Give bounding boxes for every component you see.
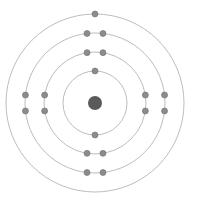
electron [142, 108, 148, 114]
electron [100, 150, 106, 156]
electron [162, 108, 168, 114]
electron [92, 68, 98, 74]
electron [142, 92, 148, 98]
electron [92, 132, 98, 138]
electron [84, 150, 90, 156]
atom-diagram [0, 0, 202, 201]
nucleus [88, 96, 102, 110]
electron [22, 92, 28, 98]
electron [100, 170, 106, 176]
electron [22, 108, 28, 114]
electron [84, 50, 90, 56]
electron [84, 170, 90, 176]
electron [42, 108, 48, 114]
electron [162, 92, 168, 98]
electron [92, 11, 98, 17]
electron [100, 30, 106, 36]
electron [100, 50, 106, 56]
electron [42, 92, 48, 98]
electron [84, 30, 90, 36]
